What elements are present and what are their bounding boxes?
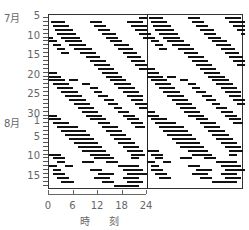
activity-bar bbox=[237, 29, 245, 31]
activity-bar bbox=[110, 40, 122, 42]
activity-bar bbox=[118, 48, 132, 50]
activity-bar bbox=[102, 33, 116, 35]
activity-bar bbox=[65, 126, 77, 128]
activity-bar bbox=[86, 115, 102, 117]
activity-bar bbox=[82, 150, 107, 152]
activity-bar bbox=[178, 48, 194, 50]
activity-bar bbox=[49, 40, 57, 42]
activity-bar bbox=[61, 37, 79, 39]
activity-bar bbox=[127, 181, 143, 183]
activity-bar bbox=[127, 118, 139, 120]
activity-bar bbox=[180, 157, 192, 159]
activity-bar bbox=[159, 33, 177, 35]
activity-bar bbox=[208, 76, 224, 78]
activity-bar bbox=[69, 79, 77, 81]
x-tick-label: 24 bbox=[136, 200, 156, 211]
activity-bar bbox=[78, 146, 103, 148]
activity-bar bbox=[131, 60, 145, 62]
activity-bar bbox=[151, 40, 159, 42]
activity-bar bbox=[229, 21, 245, 23]
activity-bar bbox=[188, 115, 204, 117]
activity-bar bbox=[184, 111, 200, 113]
activity-bar bbox=[147, 37, 155, 39]
activity-bar bbox=[159, 126, 184, 128]
activity-bar bbox=[123, 146, 139, 148]
activity-bar bbox=[74, 142, 99, 144]
activity-bar bbox=[151, 165, 159, 167]
activity-bar bbox=[200, 68, 216, 70]
activity-bar bbox=[55, 29, 73, 31]
activity-bar bbox=[225, 146, 241, 148]
activity-bar bbox=[127, 173, 147, 175]
activity-bar bbox=[139, 68, 147, 70]
activity-bar bbox=[192, 173, 208, 175]
activity-bar bbox=[118, 142, 134, 144]
activity-bar bbox=[192, 87, 200, 89]
activity-bar bbox=[135, 29, 147, 31]
activity-bar bbox=[94, 91, 102, 93]
activity-bar bbox=[82, 83, 90, 85]
activity-bar bbox=[135, 64, 147, 66]
activity-bar bbox=[204, 72, 220, 74]
activity-bar bbox=[216, 138, 232, 140]
activity-bar bbox=[221, 48, 235, 50]
actogram-plot bbox=[48, 14, 243, 189]
activity-bar bbox=[204, 126, 220, 128]
activity-bar bbox=[192, 60, 208, 62]
date-label: 5 bbox=[18, 131, 40, 142]
activity-bar bbox=[208, 130, 224, 132]
activity-bar bbox=[188, 83, 196, 85]
date-label: 1 bbox=[18, 115, 40, 126]
activity-bar bbox=[118, 111, 128, 113]
activity-bar bbox=[216, 44, 230, 46]
activity-bar bbox=[147, 150, 159, 152]
activity-bar bbox=[225, 52, 239, 54]
activity-bar bbox=[65, 95, 81, 97]
activity-bar bbox=[61, 91, 77, 93]
activity-bar bbox=[90, 154, 110, 156]
x-tick-label: 6 bbox=[63, 200, 83, 211]
x-tick-label: 18 bbox=[112, 200, 132, 211]
activity-bar bbox=[151, 79, 167, 81]
activity-bar bbox=[53, 83, 69, 85]
activity-bar bbox=[104, 99, 114, 101]
activity-bar bbox=[61, 122, 69, 124]
activity-bar bbox=[114, 107, 122, 109]
activity-bar bbox=[159, 177, 171, 179]
activity-bar bbox=[74, 103, 90, 105]
activity-bar bbox=[147, 68, 155, 70]
activity-bar bbox=[221, 165, 241, 167]
activity-bar bbox=[180, 107, 196, 109]
activity-bar bbox=[153, 25, 171, 27]
activity-bar bbox=[212, 103, 220, 105]
activity-bar bbox=[98, 122, 110, 124]
activity-bar bbox=[225, 115, 237, 117]
activity-bar bbox=[123, 115, 135, 117]
activity-bar bbox=[49, 115, 57, 117]
x-tick bbox=[146, 190, 147, 194]
activity-bar bbox=[163, 130, 188, 132]
activity-bar bbox=[208, 37, 220, 39]
activity-bar bbox=[225, 17, 241, 19]
activity-bar bbox=[149, 17, 163, 19]
activity-bar bbox=[221, 111, 233, 113]
activity-bar bbox=[49, 154, 61, 156]
month-label: 8月 bbox=[4, 115, 20, 130]
activity-bar bbox=[196, 91, 206, 93]
activity-bar bbox=[202, 95, 212, 97]
activity-bar bbox=[155, 29, 173, 31]
activity-bar bbox=[155, 173, 167, 175]
activity-bar bbox=[127, 21, 143, 23]
activity-bar bbox=[131, 157, 139, 159]
activity-bar bbox=[90, 21, 102, 23]
activity-bar bbox=[180, 146, 205, 148]
activity-bar bbox=[192, 21, 204, 23]
activity-bar bbox=[131, 154, 145, 156]
activity-bar bbox=[53, 169, 61, 171]
activity-bar bbox=[114, 83, 130, 85]
activity-bar bbox=[163, 91, 179, 93]
activity-bar bbox=[233, 60, 245, 62]
date-label: 25 bbox=[18, 88, 40, 99]
activity-bar bbox=[221, 173, 237, 175]
activity-bar bbox=[127, 56, 141, 58]
